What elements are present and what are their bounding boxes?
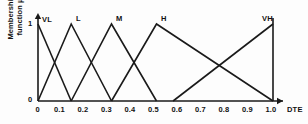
series-label-m: M <box>116 14 122 23</box>
x-tick-label-0-4: 0.4 <box>125 105 136 114</box>
series-h <box>112 24 274 101</box>
y-axis-title-line2: function µ <box>15 0 25 36</box>
x-axis-title: DTE <box>287 105 303 114</box>
x-tick-label-0-9: 0.9 <box>242 105 253 114</box>
y-axis-title-line1: Membership <box>6 0 16 40</box>
x-axis <box>38 98 283 104</box>
series-label-h: H <box>161 14 167 23</box>
y-tick-label-1: 1 <box>28 19 32 28</box>
membership-function-chart: 1 0 Membership function µ 0 0.1 0.2 0.3 … <box>0 0 308 124</box>
series-label-vl: VL <box>42 15 52 24</box>
series-l <box>38 24 112 101</box>
x-tick-label-1-0: 1.0 <box>266 105 277 114</box>
x-tick-label-0-2: 0.2 <box>78 105 89 114</box>
x-tick-label-0-7: 0.7 <box>195 105 206 114</box>
x-tick-label-0-1: 0.1 <box>54 105 65 114</box>
y-axis <box>35 13 41 101</box>
x-tick-label-0-3: 0.3 <box>101 105 112 114</box>
series-label-l: L <box>76 14 81 23</box>
x-tick-label-0-6: 0.6 <box>172 105 183 114</box>
x-tick-label-0-5: 0.5 <box>148 105 159 114</box>
series-vh <box>173 24 273 101</box>
series-label-vh: VH <box>262 14 273 23</box>
series-m <box>71 24 156 101</box>
x-tick-label-0: 0 <box>36 105 40 114</box>
y-axis-title: Membership function µ <box>4 0 26 48</box>
x-tick-label-0-8: 0.8 <box>219 105 230 114</box>
y-tick-label-0: 0 <box>28 95 32 104</box>
